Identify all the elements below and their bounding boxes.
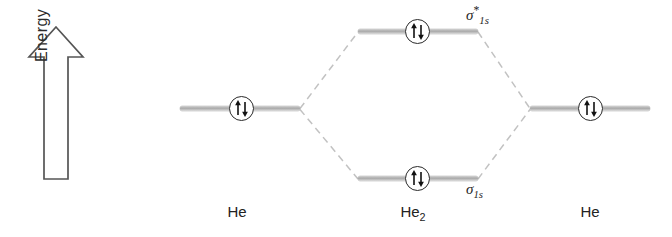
species-center-subscript: 2: [420, 211, 426, 223]
up-down-arrows-icon: [406, 20, 429, 43]
correlation-left-up: [300, 32, 358, 109]
electron-pair-atomic-left: [229, 96, 254, 121]
species-center-text: He: [400, 203, 419, 220]
label-sigma-antibonding: σ*1s: [466, 8, 489, 23]
up-down-arrows-icon: [579, 97, 602, 120]
correlation-left-down: [300, 110, 358, 180]
sigma-subscript: 1s: [473, 188, 483, 200]
mo-diagram: Energy: [0, 0, 672, 237]
electron-pair-atomic-right: [578, 96, 603, 121]
up-down-arrows-icon: [406, 167, 429, 190]
species-label-right: He: [560, 204, 620, 219]
up-down-arrows-icon: [230, 97, 253, 120]
label-sigma-bonding: σ1s: [466, 182, 483, 197]
electron-pair-sigma-antibonding: [405, 19, 430, 44]
correlation-right-up: [478, 32, 530, 109]
sigma-subscript: 1s: [479, 14, 489, 26]
correlation-right-down: [478, 110, 530, 180]
species-label-center: He2: [383, 204, 443, 219]
correlation-lines: [0, 0, 672, 237]
species-label-left: He: [207, 204, 267, 219]
electron-pair-sigma-bonding: [405, 166, 430, 191]
